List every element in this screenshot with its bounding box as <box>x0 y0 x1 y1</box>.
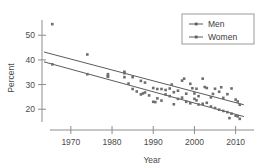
data-point-men <box>226 93 229 96</box>
data-point-women <box>144 91 147 94</box>
data-point-women <box>127 82 130 85</box>
data-point-men <box>193 92 196 95</box>
x-tick-label: 2000 <box>185 137 204 147</box>
legend-label-men: Men <box>208 19 225 29</box>
data-point-women <box>177 98 180 101</box>
data-point-men <box>123 72 126 75</box>
data-point-men <box>206 87 209 90</box>
data-point-men <box>183 77 186 80</box>
data-point-women <box>160 99 163 102</box>
data-point-women <box>236 115 239 118</box>
data-point-men <box>195 87 198 90</box>
y-tick-label: 40 <box>26 55 36 65</box>
data-point-men <box>86 53 89 56</box>
data-point-women <box>228 117 231 120</box>
data-point-women <box>135 90 138 93</box>
y-axis-title: Percent <box>6 63 16 93</box>
data-point-men <box>220 86 223 89</box>
data-point-women <box>185 101 188 104</box>
x-axis-title: Year <box>143 155 160 165</box>
chart-canvas: 20304050 19701980199020002010 MenWomen P… <box>0 0 264 167</box>
data-point-men <box>218 90 221 93</box>
data-point-men <box>214 87 217 90</box>
data-point-women <box>230 112 233 115</box>
data-point-men <box>152 87 155 90</box>
y-axis: 20304050 <box>26 20 46 122</box>
data-point-women <box>173 103 176 106</box>
trend-line-men <box>44 52 244 105</box>
chart-legend: MenWomen <box>182 14 254 44</box>
data-point-women <box>164 93 167 96</box>
data-point-men <box>189 83 192 86</box>
data-point-women <box>131 88 134 91</box>
x-axis: 19701980199020002010 <box>50 126 254 147</box>
data-point-women <box>189 102 192 105</box>
data-point-women <box>123 76 126 79</box>
data-point-women <box>154 101 157 104</box>
data-point-women <box>156 97 159 100</box>
x-tick-label: 1980 <box>103 137 122 147</box>
data-point-men <box>164 89 167 92</box>
data-point-men <box>173 91 176 94</box>
data-point-women <box>181 96 184 99</box>
data-point-men <box>177 89 180 92</box>
data-point-men <box>51 23 54 26</box>
data-point-men <box>160 88 163 91</box>
y-tick-label: 30 <box>26 80 36 90</box>
data-point-women <box>51 63 54 66</box>
data-point-men <box>210 96 213 99</box>
data-point-men <box>201 77 204 80</box>
legend-label-women: Women <box>208 32 237 42</box>
x-tick-label: 1990 <box>144 137 163 147</box>
data-point-men <box>236 100 239 103</box>
data-point-men <box>140 80 143 83</box>
data-point-women <box>210 105 213 108</box>
y-tick-label: 20 <box>26 104 36 114</box>
data-point-men <box>131 76 134 79</box>
data-point-men <box>156 88 159 91</box>
data-point-women <box>148 94 151 97</box>
data-point-women <box>107 75 110 78</box>
data-point-women <box>86 73 89 76</box>
data-point-women <box>195 99 198 102</box>
data-point-men <box>185 92 188 95</box>
data-point-men <box>191 87 194 90</box>
data-point-men <box>197 95 200 98</box>
data-point-women <box>214 107 217 110</box>
data-point-men <box>222 97 225 100</box>
data-point-women <box>168 95 171 98</box>
scatter-chart: 20304050 19701980199020002010 MenWomen P… <box>0 0 264 167</box>
data-point-men <box>168 87 171 90</box>
x-tick-label: 2010 <box>226 137 245 147</box>
data-point-women <box>238 118 241 121</box>
data-point-women <box>197 103 200 106</box>
data-point-men <box>144 81 147 84</box>
data-point-women <box>226 111 229 114</box>
legend-marker-men <box>195 23 198 26</box>
data-point-men <box>238 103 241 106</box>
data-point-men <box>212 93 215 96</box>
data-point-women <box>201 102 204 105</box>
y-tick-label: 50 <box>26 30 36 40</box>
data-point-women <box>206 102 209 105</box>
x-tick-label: 1970 <box>61 137 80 147</box>
legend-marker-women <box>195 36 198 39</box>
data-point-men <box>230 87 233 90</box>
data-point-women <box>218 108 221 111</box>
data-point-men <box>170 83 173 86</box>
data-point-women <box>222 110 225 113</box>
